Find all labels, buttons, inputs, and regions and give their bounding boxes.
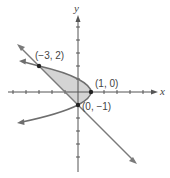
y-axis-label: y xyxy=(74,2,79,14)
point-neg3-2 xyxy=(37,64,41,68)
parabola-arrow-lower-icon xyxy=(17,119,25,125)
graph-canvas xyxy=(0,0,170,178)
graph-figure: y x (−3, 2) (1, 0) (0, −1) xyxy=(0,0,170,178)
point-label-1-0: (1, 0) xyxy=(95,78,118,89)
shaded-region xyxy=(39,66,91,105)
x-axis-label: x xyxy=(160,85,165,97)
x-axis-arrow-icon xyxy=(151,90,158,95)
parabola-arrow-upper-icon xyxy=(19,59,26,65)
point-label-neg3-2: (−3, 2) xyxy=(35,50,64,61)
point-0-neg1 xyxy=(76,103,80,107)
y-axis-arrow-icon xyxy=(76,15,81,22)
point-label-0-neg1: (0, −1) xyxy=(82,101,111,112)
point-1-0 xyxy=(89,90,93,94)
